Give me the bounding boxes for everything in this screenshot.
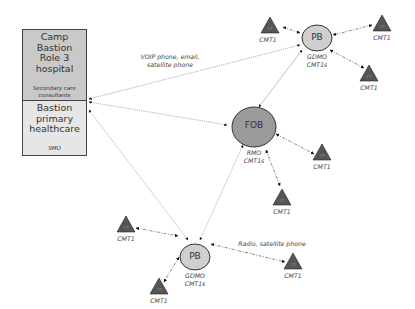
pb-top-caption-line: CMT1s [300,61,334,69]
radio-link-label: Radio, satellite phone [232,240,312,248]
hospital-title-line: Role 3 [23,53,86,64]
primary-links [89,45,302,240]
cp-captions: CMT1 CMT1 CMT1 CMT1 CMT1 CMT1 CMT1 CMT1 [117,34,390,304]
primary-title-line: healthcare [23,124,86,135]
voip-link-label: VOIP phone, email, satellite phone [132,53,208,68]
camp-bastion-hospital-box: Camp Bastion Role 3 hospital Secondary c… [22,29,87,101]
hospital-subtitle: Secondary care consultants [23,85,86,99]
cp-caption: CMT1 [284,272,301,279]
pb-top-caption-line: GDMO [300,53,334,61]
bastion-primary-healthcare-box: Bastion primary healthcare SMO [22,100,87,156]
hospital-subtitle-line: Secondary care [23,85,86,92]
cp-caption: CMT1 [259,36,276,43]
pb-top-caption: GDMO CMT1s [300,53,334,68]
cp-glyph: CP [156,287,162,292]
fob-caption-line: CMT1s [236,157,272,165]
cp-glyph: CP [123,225,129,230]
fob-caption: RMO CMT1s [236,149,272,164]
cp-glyph: CP [290,262,296,267]
hospital-title: Camp Bastion Role 3 hospital [23,30,86,74]
link-box-pb-bottom [89,110,188,240]
primary-title-line: Bastion [23,103,86,114]
cp-glyph: CP [319,153,325,158]
cp-caption: CMT1 [360,84,377,91]
pb-bottom-caption: GDMO CMT1s [178,272,212,287]
hospital-title-line: hospital [23,64,86,75]
cp-caption: CMT1 [273,208,290,215]
hospital-subtitle-line: consultants [23,92,86,99]
cp-caption: CMT1 [150,297,167,304]
pb-bottom-caption-line: CMT1s [178,280,212,288]
cp-caption: CMT1 [373,34,390,41]
fob-caption-line: RMO [236,149,272,157]
cp-glyph: CP [366,74,372,79]
link-box-fob [89,102,227,125]
hospital-title-line: Camp [23,32,86,43]
primary-title: Bastion primary healthcare [23,101,86,135]
pb-bottom-label: PB [180,251,210,261]
cp-glyph: CP [379,24,385,29]
cp-caption: CMT1 [313,163,330,170]
pb-top-label: PB [302,32,332,42]
voip-link-label-line: VOIP phone, email, [132,53,208,61]
cp-glyph: CP [279,198,285,203]
pb-bottom-caption-line: GDMO [178,272,212,280]
primary-subtitle: SMO [23,145,86,152]
fob-label: FOB [234,120,274,130]
voip-link-label-line: satellite phone [132,61,208,69]
cp-caption: CMT1 [117,235,134,242]
cp-glyph: CP [267,26,273,31]
link-pb-top-fob [259,50,302,107]
